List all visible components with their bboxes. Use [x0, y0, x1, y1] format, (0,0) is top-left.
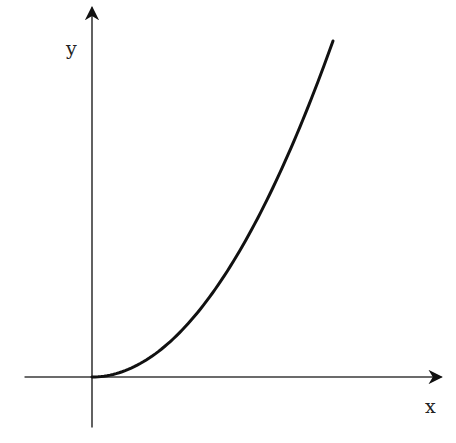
chart: x y — [0, 0, 456, 443]
series-line-curve — [92, 41, 333, 377]
x-axis-label: x — [425, 395, 436, 417]
y-axis-label: y — [65, 37, 77, 59]
